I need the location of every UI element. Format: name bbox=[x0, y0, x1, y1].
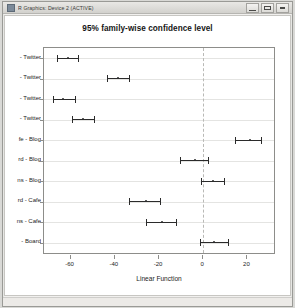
x-axis-tick bbox=[70, 255, 71, 259]
y-axis-label: - Twitter bbox=[20, 74, 41, 81]
r-graphics-icon bbox=[7, 4, 15, 12]
y-axis-label: ns - Blog bbox=[17, 177, 41, 184]
y-axis-tick bbox=[40, 99, 44, 100]
ci-upper-cap bbox=[208, 157, 209, 164]
y-axis-labels: - Twitter- Twitter- Twitter- Twitterfe -… bbox=[5, 47, 41, 254]
confidence-interval bbox=[235, 137, 262, 144]
y-axis-tick bbox=[40, 120, 44, 121]
x-axis-tick bbox=[246, 255, 247, 259]
gridline bbox=[44, 181, 274, 182]
x-axis-tick bbox=[202, 255, 203, 259]
y-axis-tick bbox=[40, 58, 44, 59]
y-axis-label: - Twitter bbox=[20, 95, 41, 102]
r-graphics-window: R Graphics: Device 2 (ACTIVE) 95% family… bbox=[2, 1, 293, 307]
estimate-point bbox=[249, 139, 251, 141]
plot-box bbox=[43, 47, 275, 254]
plot-area: 95% family-wise confidence level - Twitt… bbox=[5, 16, 290, 295]
x-axis-title: Linear Function bbox=[43, 275, 275, 282]
confidence-interval bbox=[200, 239, 229, 246]
y-axis-tick bbox=[40, 202, 44, 203]
ci-upper-cap bbox=[129, 75, 130, 82]
y-axis-tick bbox=[40, 243, 44, 244]
x-axis-tick-label: -60 bbox=[65, 261, 74, 267]
x-axis-tick-labels: -60-40-20020 bbox=[43, 261, 275, 270]
gridline bbox=[44, 243, 274, 244]
graphics-canvas: 95% family-wise confidence level - Twitt… bbox=[4, 15, 291, 296]
confidence-interval bbox=[57, 55, 79, 62]
y-axis-label: ns - Cafe bbox=[17, 218, 41, 225]
confidence-interval bbox=[129, 198, 161, 205]
y-axis-tick bbox=[40, 79, 44, 80]
y-axis-label: - Twitter bbox=[20, 115, 41, 122]
ci-bar bbox=[53, 99, 76, 100]
gridline bbox=[44, 79, 274, 80]
y-axis-tick bbox=[40, 161, 44, 162]
x-axis-tick bbox=[158, 255, 159, 259]
y-axis-label: rd - Blog bbox=[18, 156, 41, 163]
estimate-point bbox=[212, 180, 214, 182]
x-axis-tick-label: 0 bbox=[201, 261, 204, 267]
maximize-button[interactable] bbox=[261, 3, 274, 13]
ci-upper-cap bbox=[224, 178, 225, 185]
ci-upper-cap bbox=[228, 239, 229, 246]
confidence-interval bbox=[53, 96, 76, 103]
gridline bbox=[44, 161, 274, 162]
window-title: R Graphics: Device 2 (ACTIVE) bbox=[18, 5, 246, 11]
close-button[interactable] bbox=[276, 3, 289, 13]
confidence-interval bbox=[107, 75, 130, 82]
minimize-button[interactable] bbox=[246, 3, 259, 13]
window-titlebar[interactable]: R Graphics: Device 2 (ACTIVE) bbox=[3, 2, 292, 14]
ci-upper-cap bbox=[261, 137, 262, 144]
gridline bbox=[44, 99, 274, 100]
y-axis-tick bbox=[40, 181, 44, 182]
status-bar bbox=[3, 297, 292, 306]
confidence-interval bbox=[201, 178, 225, 185]
chart-title: 95% family-wise confidence level bbox=[5, 24, 290, 33]
ci-upper-cap bbox=[176, 219, 177, 226]
y-axis-label: - Board bbox=[21, 238, 41, 245]
y-axis-tick bbox=[40, 140, 44, 141]
confidence-interval bbox=[72, 116, 95, 123]
x-axis-tick-label: -20 bbox=[154, 261, 163, 267]
window-controls bbox=[246, 3, 290, 13]
confidence-interval bbox=[146, 219, 177, 226]
y-axis-label: rd - Cafe bbox=[18, 197, 41, 204]
confidence-interval bbox=[180, 157, 209, 164]
x-axis-tick-label: -40 bbox=[109, 261, 118, 267]
ci-upper-cap bbox=[160, 198, 161, 205]
x-axis-tick-label: 20 bbox=[243, 261, 250, 267]
x-axis-tick bbox=[114, 255, 115, 259]
zero-reference-line bbox=[203, 48, 204, 253]
y-axis-label: - Twitter bbox=[20, 54, 41, 61]
y-axis-label: fe - Blog bbox=[19, 136, 41, 143]
estimate-point bbox=[62, 98, 64, 100]
ci-upper-cap bbox=[94, 116, 95, 123]
ci-upper-cap bbox=[75, 96, 76, 103]
x-axis-ticks bbox=[43, 255, 275, 260]
ci-upper-cap bbox=[78, 55, 79, 62]
y-axis-tick bbox=[40, 222, 44, 223]
